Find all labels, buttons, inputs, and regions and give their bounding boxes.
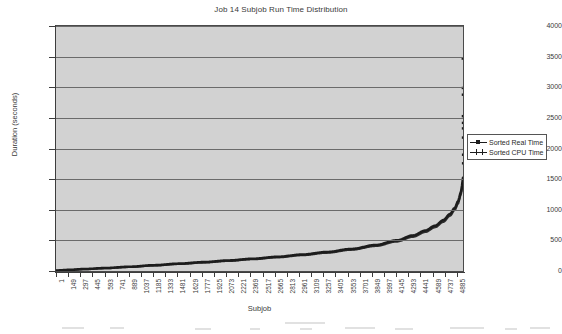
x-axis-tick [420, 273, 421, 277]
x-axis-label: 3849 [375, 279, 382, 293]
x-axis-label: 1629 [193, 279, 200, 293]
x-axis-tick [165, 273, 166, 277]
y-axis-tick [49, 57, 55, 58]
y-axis-tick [49, 118, 55, 119]
x-axis-tick [177, 273, 178, 277]
x-axis-label: 1481 [180, 279, 187, 293]
x-axis-tick [141, 273, 142, 277]
x-axis-label: 1037 [144, 279, 151, 293]
y-axis-label: 3000 [516, 83, 562, 90]
x-axis-label: 445 [95, 279, 102, 290]
x-axis-tick [56, 273, 57, 277]
y-axis-tick [49, 210, 55, 211]
x-axis-tick [117, 273, 118, 277]
gridline [56, 87, 463, 88]
x-axis-label: 4441 [423, 279, 430, 293]
gridline [56, 57, 463, 58]
x-axis-tick [202, 273, 203, 277]
x-axis-label: 2221 [241, 279, 248, 293]
x-axis-tick [153, 273, 154, 277]
y-axis-label: 4000 [516, 22, 562, 29]
x-axis-label: 1 [59, 279, 66, 283]
x-axis-tick [226, 273, 227, 277]
y-axis-tick [49, 179, 55, 180]
y-axis-label: 1000 [516, 206, 562, 213]
x-axis-tick [408, 273, 409, 277]
x-axis-tick [457, 273, 458, 277]
gridline [56, 179, 463, 180]
x-axis-label: 4885 [460, 279, 467, 293]
x-axis-tick [250, 273, 251, 277]
gridline [56, 118, 463, 119]
x-axis-label: 741 [120, 279, 127, 290]
x-axis-label: 3701 [363, 279, 370, 293]
y-axis-label: 500 [516, 236, 562, 243]
x-axis-tick [360, 273, 361, 277]
x-axis-tick [214, 273, 215, 277]
x-axis-tick [323, 273, 324, 277]
x-axis-title: Subjob [55, 304, 464, 313]
legend-item-real-time[interactable]: Sorted Real Time [470, 137, 543, 147]
x-axis-tick [68, 273, 69, 277]
x-axis-tick [445, 273, 446, 277]
x-axis-tick [335, 273, 336, 277]
y-axis-line [55, 25, 56, 273]
x-axis-tick [348, 273, 349, 277]
x-axis-label: 3257 [326, 279, 333, 293]
x-axis-tick [372, 273, 373, 277]
x-axis-label: 889 [132, 279, 139, 290]
y-axis-tick [49, 26, 55, 27]
x-axis-tick [396, 273, 397, 277]
gridline [56, 240, 463, 241]
x-axis-tick [287, 273, 288, 277]
x-axis-tick [299, 273, 300, 277]
legend-item-cpu-time[interactable]: Sorted CPU Time [470, 147, 543, 157]
x-axis-tick [311, 273, 312, 277]
x-axis-tick [105, 273, 106, 277]
x-axis-tick [238, 273, 239, 277]
x-axis-label: 4589 [436, 279, 443, 293]
y-axis-tick [49, 149, 55, 150]
gridline [56, 149, 463, 150]
x-axis-label: 3553 [351, 279, 358, 293]
x-axis-label: 3405 [338, 279, 345, 293]
y-axis-label: 1500 [516, 175, 562, 182]
x-axis-label: 4737 [448, 279, 455, 293]
chart-legend: Sorted Real Time Sorted CPU Time [467, 134, 547, 160]
x-axis-tick [129, 273, 130, 277]
y-axis-label: 3500 [516, 53, 562, 60]
x-axis-label: 1185 [156, 279, 163, 293]
plot-area [55, 25, 464, 272]
x-axis-label: 2073 [229, 279, 236, 293]
x-axis-label: 149 [71, 279, 78, 290]
gridline [56, 210, 463, 211]
x-axis-tick [92, 273, 93, 277]
y-axis-title: Duration (seconds) [10, 65, 19, 185]
y-axis-label: 2500 [516, 114, 562, 121]
x-axis-tick [80, 273, 81, 277]
x-axis-label: 3109 [314, 279, 321, 293]
x-axis-tick [384, 273, 385, 277]
x-axis-label: 4145 [399, 279, 406, 293]
x-axis-label: 297 [83, 279, 90, 290]
legend-marker-cpu-time-icon [470, 148, 487, 157]
x-axis-label: 2961 [302, 279, 309, 293]
x-axis-label: 4293 [411, 279, 418, 293]
legend-label-real-time: Sorted Real Time [487, 138, 543, 147]
x-axis-label: 1333 [168, 279, 175, 293]
series-line-real-time [56, 178, 463, 271]
legend-marker-real-time-icon [470, 138, 487, 147]
x-axis-label: 1925 [217, 279, 224, 293]
gridline [56, 26, 463, 27]
x-axis-tick [433, 273, 434, 277]
x-axis-label: 2813 [290, 279, 297, 293]
y-axis-tick [49, 240, 55, 241]
x-axis-label: 593 [108, 279, 115, 290]
x-axis-label: 1777 [205, 279, 212, 293]
page-artifact [0, 322, 562, 334]
x-axis-label: 2665 [278, 279, 285, 293]
x-axis-tick [275, 273, 276, 277]
x-axis-label: 3997 [387, 279, 394, 293]
chart-title: Job 14 Subjob Run Time Distribution [0, 5, 562, 14]
legend-label-cpu-time: Sorted CPU Time [487, 148, 543, 157]
